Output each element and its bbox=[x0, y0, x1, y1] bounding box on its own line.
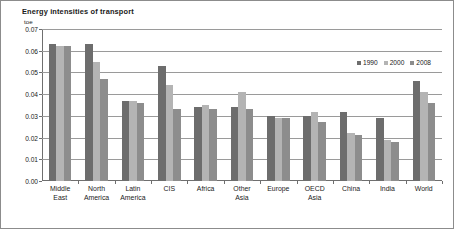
bar[interactable] bbox=[275, 118, 283, 181]
plot-area: 0.000.010.020.030.040.050.060.07 bbox=[42, 29, 442, 181]
x-axis-label: Africa bbox=[187, 185, 223, 202]
x-axis-label: Europe bbox=[260, 185, 296, 202]
x-axis-label: Middle East bbox=[42, 185, 78, 202]
bar-group bbox=[333, 29, 369, 181]
y-axis-tick-label: 0.02 bbox=[25, 134, 38, 141]
bar[interactable] bbox=[267, 116, 275, 181]
bar[interactable] bbox=[173, 109, 181, 181]
x-axis-label: North America bbox=[78, 185, 114, 202]
x-axis-tick-mark bbox=[151, 181, 152, 184]
x-axis-tick-mark bbox=[187, 181, 188, 184]
x-axis-tick-mark bbox=[224, 181, 225, 184]
x-axis-label: Other Asia bbox=[224, 185, 260, 202]
chart-figure: Energy intensities of transport toe 1990… bbox=[0, 0, 454, 229]
bar[interactable] bbox=[209, 109, 217, 181]
x-axis-tick-mark bbox=[333, 181, 334, 184]
bar[interactable] bbox=[246, 109, 254, 181]
bar[interactable] bbox=[158, 66, 166, 181]
x-axis-tick-mark bbox=[442, 181, 443, 184]
bar[interactable] bbox=[64, 46, 72, 181]
x-axis-tick-mark bbox=[406, 181, 407, 184]
x-axis-label: CIS bbox=[151, 185, 187, 202]
bar[interactable] bbox=[231, 107, 239, 181]
bar[interactable] bbox=[100, 79, 108, 181]
bar[interactable] bbox=[238, 92, 246, 181]
x-axis-tick-mark bbox=[115, 181, 116, 184]
bar[interactable] bbox=[202, 105, 210, 181]
bar[interactable] bbox=[355, 135, 363, 181]
x-axis-label: China bbox=[333, 185, 369, 202]
x-axis-tick-mark bbox=[260, 181, 261, 184]
bar-group bbox=[78, 29, 114, 181]
x-axis-label: Latin America bbox=[115, 185, 151, 202]
bar[interactable] bbox=[194, 107, 202, 181]
x-axis-tick-mark bbox=[297, 181, 298, 184]
bar-group bbox=[42, 29, 78, 181]
y-axis-tick-mark bbox=[39, 181, 42, 182]
bar-group bbox=[406, 29, 442, 181]
y-axis-tick-label: 0.06 bbox=[25, 47, 38, 54]
y-axis-tick-label: 0.01 bbox=[25, 156, 38, 163]
bar-group bbox=[115, 29, 151, 181]
x-axis-tick-mark bbox=[78, 181, 79, 184]
bar[interactable] bbox=[137, 103, 145, 181]
y-axis-tick-label: 0.00 bbox=[25, 178, 38, 185]
x-axis-labels: Middle EastNorth AmericaLatin AmericaCIS… bbox=[42, 185, 442, 202]
bar-group bbox=[187, 29, 223, 181]
x-axis-label: World bbox=[406, 185, 442, 202]
bar[interactable] bbox=[428, 103, 436, 181]
y-axis-unit-label: toe bbox=[24, 18, 33, 25]
y-axis-tick-label: 0.07 bbox=[25, 26, 38, 33]
y-axis-tick-label: 0.03 bbox=[25, 112, 38, 119]
bar[interactable] bbox=[413, 81, 421, 181]
bar[interactable] bbox=[282, 118, 290, 181]
bar[interactable] bbox=[384, 140, 392, 181]
x-axis-label: India bbox=[369, 185, 405, 202]
bar-group bbox=[224, 29, 260, 181]
bar[interactable] bbox=[93, 62, 101, 181]
x-axis-label: OECD Asia bbox=[297, 185, 333, 202]
bar[interactable] bbox=[166, 85, 174, 181]
bar[interactable] bbox=[129, 101, 137, 181]
bar[interactable] bbox=[347, 133, 355, 181]
bar[interactable] bbox=[49, 44, 57, 181]
bar-group bbox=[297, 29, 333, 181]
bar-group bbox=[369, 29, 405, 181]
bar[interactable] bbox=[122, 101, 130, 181]
bar[interactable] bbox=[56, 46, 64, 181]
bar[interactable] bbox=[376, 118, 384, 181]
bar-group bbox=[151, 29, 187, 181]
chart-title: Energy intensities of transport bbox=[22, 7, 134, 16]
x-axis-tick-mark bbox=[369, 181, 370, 184]
bar-groups bbox=[42, 29, 442, 181]
y-axis-tick-label: 0.05 bbox=[25, 69, 38, 76]
bar[interactable] bbox=[420, 92, 428, 181]
bar-group bbox=[260, 29, 296, 181]
bar[interactable] bbox=[311, 112, 319, 181]
bar[interactable] bbox=[85, 44, 93, 181]
bar[interactable] bbox=[340, 112, 348, 181]
bar[interactable] bbox=[391, 142, 399, 181]
bar[interactable] bbox=[303, 116, 311, 181]
y-axis-tick-label: 0.04 bbox=[25, 91, 38, 98]
bar[interactable] bbox=[318, 122, 326, 181]
